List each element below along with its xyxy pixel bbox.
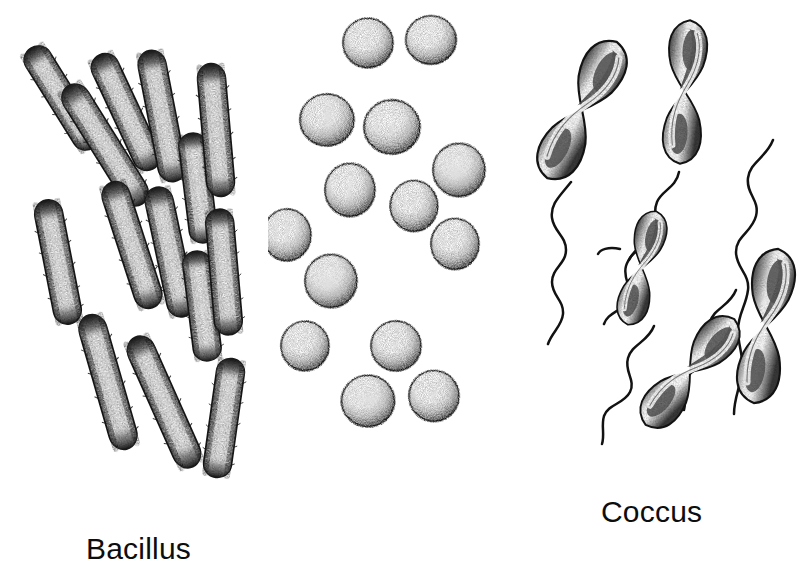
bacteria-shapes-figure: Bacillus (0, 0, 802, 585)
flagellum (602, 326, 654, 444)
coccus-cell (431, 219, 479, 270)
coccus-cell (390, 181, 438, 232)
coccus-cell (433, 144, 485, 197)
bacillus-cell (29, 197, 86, 327)
spirillum-cell (613, 207, 672, 328)
bacillus-cells-svg (0, 0, 268, 585)
coccus-cell (281, 321, 329, 371)
coccus-cells-svg (268, 0, 508, 585)
coccus-cell (406, 16, 457, 65)
spirillum-cell (528, 32, 636, 188)
coccus-cell (364, 100, 420, 154)
panel-spirillum: Spirillum (508, 0, 802, 585)
flagellum (548, 182, 571, 344)
coccus-cell (305, 255, 357, 308)
label-bacillus: Bacillus (86, 534, 191, 564)
coccus-cell (342, 375, 395, 427)
coccus-cell (409, 371, 459, 422)
coccus-cell (343, 18, 393, 68)
spirillum-cell (631, 307, 750, 438)
bacillus-cell-group (16, 39, 249, 480)
panel-coccus: Coccus (268, 0, 508, 585)
panel-bacillus: Bacillus (0, 0, 268, 585)
coccus-cell (371, 321, 421, 371)
coccus-cell (325, 164, 375, 217)
bacillus-cell (199, 356, 249, 480)
spirillum-cell-group (528, 19, 799, 444)
bacillus-cell (72, 310, 143, 453)
coccus-cell-group (268, 16, 485, 427)
spirillum-cells-svg (508, 0, 802, 585)
coccus-cell (268, 209, 311, 261)
flagellum (598, 248, 620, 254)
spirillum-cell (661, 19, 709, 165)
coccus-cell (300, 94, 354, 146)
